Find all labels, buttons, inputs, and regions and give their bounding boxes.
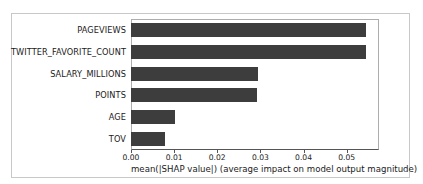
bar xyxy=(131,67,258,81)
y-axis-tick-label: SALARY_MILLIONS xyxy=(50,67,126,81)
y-axis-tick-label: POINTS xyxy=(95,88,126,102)
x-axis-tick-label: 0.05 xyxy=(338,153,355,162)
bar xyxy=(131,23,366,37)
x-axis-tick-label: 0.01 xyxy=(166,153,183,162)
bar xyxy=(131,45,366,59)
x-axis-ticks: 0.000.010.020.030.040.05 xyxy=(131,150,379,164)
y-axis-tick-label: TWITTER_FAVORITE_COUNT xyxy=(11,45,126,59)
x-axis-tick-label: 0.02 xyxy=(209,153,226,162)
bar xyxy=(131,132,165,146)
x-axis-tick-label: 0.00 xyxy=(123,153,140,162)
x-axis-tick-label: 0.04 xyxy=(295,153,312,162)
shap-feature-importance-figure: PAGEVIEWSTWITTER_FAVORITE_COUNTSALARY_MI… xyxy=(0,0,423,184)
x-axis-label: mean(|SHAP value|) (average impact on mo… xyxy=(131,164,379,174)
bar-row: PAGEVIEWS xyxy=(131,23,379,37)
bar-row: SALARY_MILLIONS xyxy=(131,67,379,81)
bar xyxy=(131,88,257,102)
bar-row: TWITTER_FAVORITE_COUNT xyxy=(131,45,379,59)
bar-row: AGE xyxy=(131,110,379,124)
bar-row: POINTS xyxy=(131,88,379,102)
y-axis-tick-label: PAGEVIEWS xyxy=(77,23,126,37)
bar xyxy=(131,110,175,124)
y-axis-tick-label: AGE xyxy=(109,110,126,124)
y-axis-tick-label: TOV xyxy=(109,132,126,146)
bar-row: TOV xyxy=(131,132,379,146)
bars-container: PAGEVIEWSTWITTER_FAVORITE_COUNTSALARY_MI… xyxy=(131,19,379,150)
x-axis-tick-label: 0.03 xyxy=(252,153,269,162)
